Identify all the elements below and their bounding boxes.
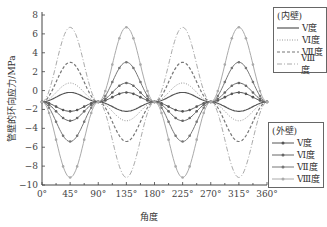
svg-text:0°: 0°: [37, 189, 47, 199]
svg-text:360°: 360°: [256, 189, 278, 199]
svg-text:90°: 90°: [90, 189, 106, 199]
legend-inner-item: Ⅵ度: [277, 34, 323, 46]
svg-text:8: 8: [32, 10, 38, 20]
svg-text:−4: −4: [25, 123, 39, 133]
svg-text:−8: −8: [25, 161, 39, 171]
svg-text:0: 0: [32, 86, 38, 96]
svg-text:−10: −10: [19, 180, 38, 190]
svg-text:−6: −6: [25, 142, 39, 152]
svg-text:−2: −2: [25, 104, 38, 114]
svg-text:6: 6: [32, 29, 38, 39]
svg-text:180°: 180°: [144, 189, 166, 199]
curves: [41, 26, 269, 179]
legend-outer-item: Ⅷ度: [272, 173, 320, 185]
svg-text:4: 4: [32, 48, 38, 58]
legend-inner-title: (内壁): [277, 10, 323, 22]
svg-text:2: 2: [32, 67, 38, 77]
legend-outer-title: (外壁): [272, 125, 320, 137]
legend-outer-item: Ⅵ度: [272, 149, 320, 161]
legend-inner-wall: (内壁) Ⅴ度 Ⅵ度 Ⅶ度 Ⅷ度: [273, 7, 327, 73]
svg-text:45°: 45°: [62, 189, 78, 199]
legend-outer-item: Ⅴ度: [272, 137, 320, 149]
legend-outer-wall: (外壁) Ⅴ度 Ⅵ度 Ⅶ度 Ⅷ度: [268, 122, 324, 188]
legend-inner-item: Ⅷ度: [277, 58, 323, 70]
svg-text:135°: 135°: [116, 189, 138, 199]
x-axis-label: 角度: [140, 210, 158, 223]
y-axis-label: 管壁的环向应力/MPa: [5, 44, 18, 154]
legend-outer-item: Ⅶ度: [272, 161, 320, 173]
svg-text:315°: 315°: [228, 189, 250, 199]
legend-inner-item: Ⅴ度: [277, 22, 323, 34]
svg-text:225°: 225°: [172, 189, 194, 199]
svg-text:270°: 270°: [200, 189, 222, 199]
axes: 86420−2−4−6−8−100°45°90°135°180°225°270°…: [19, 10, 278, 199]
